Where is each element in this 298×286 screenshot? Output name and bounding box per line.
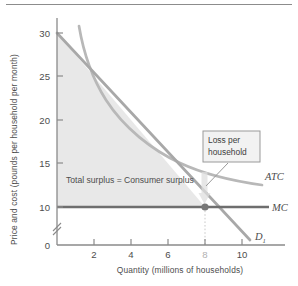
chart-svg: 30 25 20 15 10 0 2 4 6 8 10 Price and co… (0, 0, 298, 286)
chart-figure: 30 25 20 15 10 0 2 4 6 8 10 Price and co… (0, 0, 298, 286)
loss-callout-line1: Loss per (208, 135, 240, 145)
demand-label-subscript: 1 (263, 237, 266, 244)
mc-curve-label: MC (271, 202, 289, 213)
efficient-output-marker (201, 203, 208, 210)
y-tick-label-10: 10 (39, 202, 50, 213)
y-tick-label-30: 30 (39, 28, 50, 39)
y-tick-label-25: 25 (39, 71, 50, 82)
atc-curve-label: ATC (264, 171, 285, 182)
x-axis-title: Quantity (millions of households) (117, 265, 244, 275)
loss-callout-line2: household (208, 147, 247, 157)
x-tick-label-6: 6 (165, 249, 170, 260)
x-tick-label-8: 8 (202, 249, 207, 260)
x-tick-label-10: 10 (237, 249, 248, 260)
y-axis-title: Price and cost (pounds per household per… (9, 54, 19, 245)
demand-curve-label: D1 (254, 231, 266, 244)
y-origin-label: 0 (45, 240, 50, 251)
y-tick-label-20: 20 (39, 115, 50, 126)
x-axis-ticks (94, 239, 242, 245)
y-tick-label-15: 15 (39, 158, 50, 169)
x-tick-label-4: 4 (128, 249, 134, 260)
surplus-region-label: Total surplus = Consumer surplus (66, 175, 194, 185)
x-tick-label-2: 2 (91, 249, 96, 260)
